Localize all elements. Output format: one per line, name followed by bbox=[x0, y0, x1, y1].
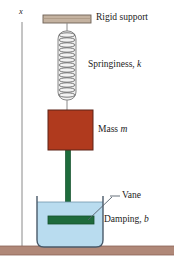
mass-label: Mass m bbox=[98, 125, 127, 135]
damping-fluid bbox=[37, 202, 103, 247]
damping-text: Damping, bbox=[104, 214, 144, 224]
mass-text: Mass bbox=[98, 124, 120, 134]
physics-diagram: x Rigid support Springiness, k Mass m Va… bbox=[0, 0, 174, 264]
mass-block bbox=[48, 110, 93, 150]
rigid-support-label: Rigid support bbox=[96, 13, 148, 23]
springiness-symbol: k bbox=[137, 59, 141, 69]
springiness-text: Springiness, bbox=[88, 59, 137, 69]
damping-symbol: b bbox=[144, 214, 149, 224]
vane-label: Vane bbox=[122, 191, 141, 201]
damping-label: Damping, b bbox=[104, 215, 149, 225]
vane-plate bbox=[48, 216, 94, 224]
mass-symbol: m bbox=[120, 124, 127, 134]
rigid-support-bar bbox=[43, 15, 91, 23]
springiness-label: Springiness, k bbox=[88, 60, 141, 70]
coil-spring bbox=[58, 31, 76, 100]
x-axis-label: x bbox=[19, 7, 23, 16]
